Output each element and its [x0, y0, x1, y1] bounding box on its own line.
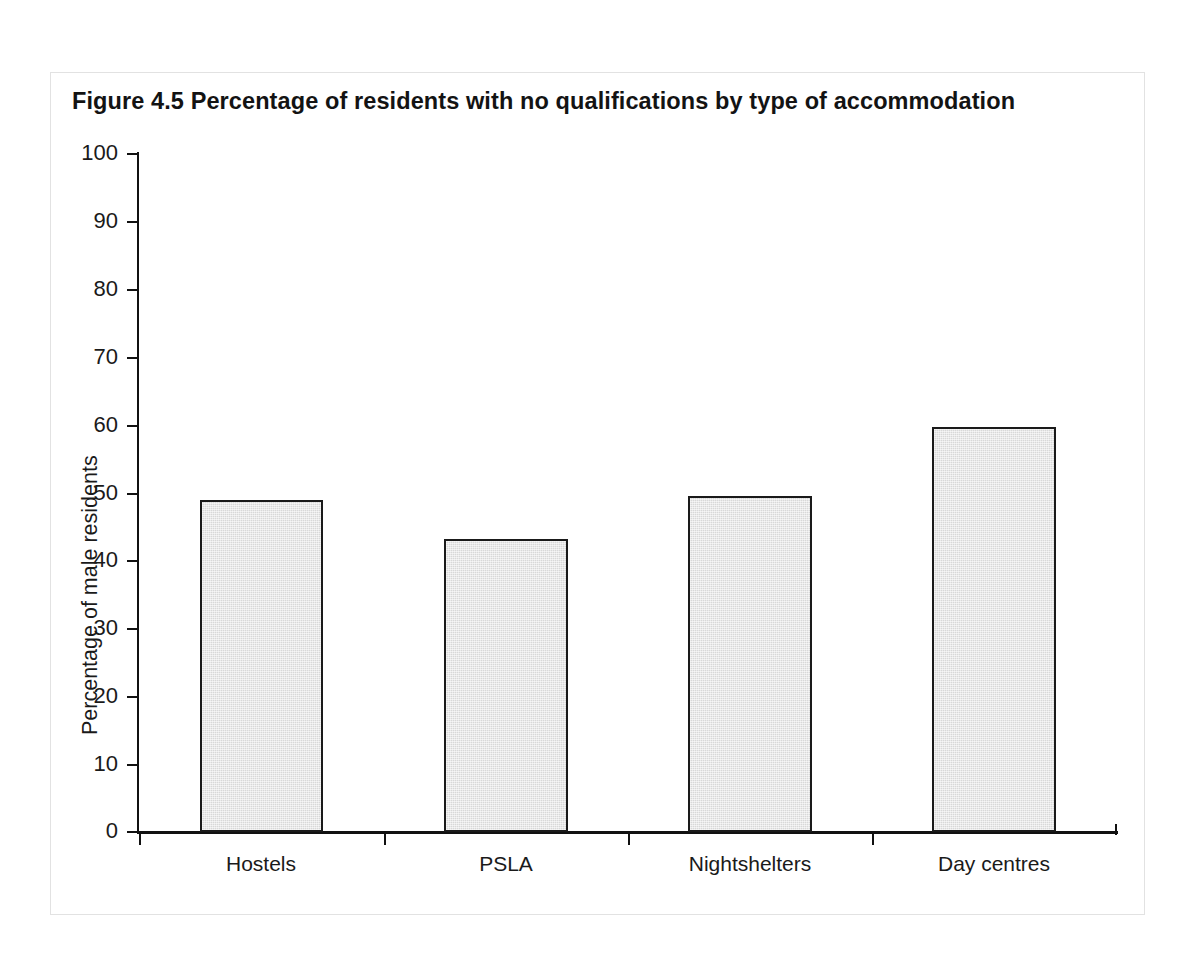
y-tick-label-100: 100 [60, 142, 118, 164]
x-category-label-hostels: Hostels [181, 852, 341, 876]
x-category-label-psla: PSLA [426, 852, 586, 876]
y-tick-100 [127, 153, 138, 155]
bar-nightshelters[interactable] [688, 496, 812, 832]
y-tick-label-0: 0 [60, 820, 118, 842]
y-tick-90 [127, 221, 138, 223]
bar-psla[interactable] [444, 539, 568, 832]
y-tick-80 [127, 289, 138, 291]
bar-day-centres[interactable] [932, 427, 1056, 832]
x-axis-end-tick [1115, 824, 1117, 835]
y-tick-40 [127, 560, 138, 562]
x-tick-boundary-1 [384, 833, 386, 845]
y-tick-50 [127, 493, 138, 495]
x-category-label-nightshelters: Nightshelters [660, 852, 840, 876]
y-tick-label-10: 10 [60, 753, 118, 775]
y-tick-70 [127, 357, 138, 359]
x-tick-boundary-2 [628, 833, 630, 845]
figure-page: Figure 4.5 Percentage of residents with … [0, 0, 1193, 980]
x-tick-boundary-3 [872, 833, 874, 845]
y-tick-60 [127, 425, 138, 427]
y-tick-0 [127, 831, 138, 833]
y-tick-label-90: 90 [60, 210, 118, 232]
y-tick-30 [127, 628, 138, 630]
x-category-label-day-centres: Day centres [904, 852, 1084, 876]
y-tick-10 [127, 764, 138, 766]
y-axis-title: Percentage of male residents [78, 255, 103, 735]
y-tick-20 [127, 696, 138, 698]
bar-hostels[interactable] [200, 500, 323, 832]
x-tick-boundary-0 [139, 833, 141, 845]
chart-plot-area: 100 90 80 70 60 50 40 30 [0, 0, 1193, 980]
